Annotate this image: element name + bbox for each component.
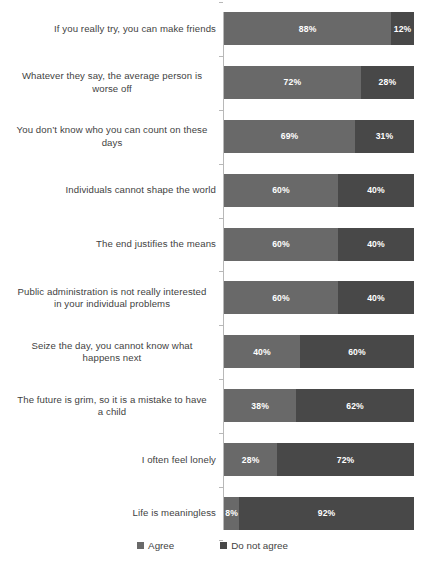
bar-row: I often feel lonely28%72% [0, 443, 425, 476]
segment-value-label: 72% [337, 455, 355, 465]
axis-tick [219, 218, 223, 219]
legend-label: Agree [148, 540, 174, 551]
bar-row: Life is meaningless8%92% [0, 497, 425, 530]
bar-row: Individuals cannot shape the world60%40% [0, 174, 425, 207]
stacked-bar: 40%60% [224, 335, 414, 368]
segment-value-label: 60% [272, 293, 290, 303]
category-label: Whatever they say, the average person is… [8, 70, 216, 95]
legend-label: Do not agree [231, 540, 288, 551]
segment-agree: 60% [224, 281, 338, 314]
category-label: You don’t know who you can count on thes… [8, 124, 216, 149]
segment-value-label: 88% [299, 24, 317, 34]
segment-agree: 38% [224, 389, 296, 422]
axis-tick [219, 2, 223, 3]
axis-tick [219, 164, 223, 165]
stacked-bar: 60%40% [224, 281, 414, 314]
axis-tick [219, 110, 223, 111]
segment-value-label: 69% [281, 131, 299, 141]
stacked-bar: 60%40% [224, 174, 414, 207]
category-label: If you really try, you can make friends [8, 22, 216, 35]
segment-agree: 60% [224, 174, 338, 207]
chart-legend: AgreeDo not agree [0, 540, 425, 551]
bar-row: The future is grim, so it is a mistake t… [0, 389, 425, 422]
segment-value-label: 12% [394, 24, 412, 34]
segment-value-label: 92% [318, 508, 336, 518]
segment-value-label: 40% [253, 347, 271, 357]
category-label: Seize the day, you cannot know what happ… [8, 339, 216, 364]
segment-value-label: 31% [376, 131, 394, 141]
legend-item[interactable]: Agree [137, 540, 174, 551]
segment-do-not-agree: 31% [355, 120, 414, 153]
segment-do-not-agree: 40% [338, 174, 414, 207]
segment-value-label: 72% [284, 77, 302, 87]
segment-do-not-agree: 40% [338, 228, 414, 261]
segment-do-not-agree: 60% [300, 335, 414, 368]
stacked-bar: 88%12% [224, 12, 414, 45]
segment-agree: 40% [224, 335, 300, 368]
plot-area: If you really try, you can make friends8… [0, 12, 425, 530]
axis-tick [219, 379, 223, 380]
segment-value-label: 8% [225, 508, 238, 518]
segment-value-label: 40% [367, 185, 385, 195]
bar-rows: If you really try, you can make friends8… [0, 12, 425, 530]
stacked-bar: 72%28% [224, 66, 414, 99]
stacked-bar: 8%92% [224, 497, 414, 530]
segment-value-label: 60% [348, 347, 366, 357]
bar-row: The end justifies the means60%40% [0, 228, 425, 261]
segment-do-not-agree: 40% [338, 281, 414, 314]
segment-agree: 28% [224, 443, 277, 476]
segment-value-label: 62% [346, 401, 364, 411]
axis-tick [219, 325, 223, 326]
axis-tick [219, 433, 223, 434]
segment-do-not-agree: 92% [239, 497, 414, 530]
bar-row: Seize the day, you cannot know what happ… [0, 335, 425, 368]
segment-agree: 72% [224, 66, 361, 99]
axis-tick [219, 271, 223, 272]
category-label: I often feel lonely [8, 453, 216, 466]
stacked-bar-chart: If you really try, you can make friends8… [0, 0, 425, 572]
segment-value-label: 28% [242, 455, 260, 465]
category-label: The future is grim, so it is a mistake t… [8, 393, 216, 418]
bar-row: You don’t know who you can count on thes… [0, 120, 425, 153]
segment-value-label: 40% [367, 293, 385, 303]
stacked-bar: 69%31% [224, 120, 414, 153]
segment-value-label: 28% [379, 77, 397, 87]
category-label: Life is meaningless [8, 507, 216, 520]
stacked-bar: 28%72% [224, 443, 414, 476]
segment-agree: 8% [224, 497, 239, 530]
segment-do-not-agree: 62% [296, 389, 414, 422]
legend-item[interactable]: Do not agree [220, 540, 288, 551]
category-label: Public administration is not really inte… [8, 285, 216, 310]
bar-row: If you really try, you can make friends8… [0, 12, 425, 45]
segment-do-not-agree: 28% [361, 66, 414, 99]
category-label: The end justifies the means [8, 238, 216, 251]
segment-agree: 88% [224, 12, 391, 45]
stacked-bar: 60%40% [224, 228, 414, 261]
segment-do-not-agree: 72% [277, 443, 414, 476]
bar-row: Public administration is not really inte… [0, 281, 425, 314]
stacked-bar: 38%62% [224, 389, 414, 422]
bar-row: Whatever they say, the average person is… [0, 66, 425, 99]
axis-tick [219, 487, 223, 488]
segment-agree: 60% [224, 228, 338, 261]
legend-swatch-icon [220, 542, 227, 549]
segment-value-label: 60% [272, 239, 290, 249]
segment-agree: 69% [224, 120, 355, 153]
category-label: Individuals cannot shape the world [8, 184, 216, 197]
segment-value-label: 60% [272, 185, 290, 195]
axis-tick [219, 56, 223, 57]
segment-value-label: 40% [367, 239, 385, 249]
legend-swatch-icon [137, 542, 144, 549]
segment-value-label: 38% [251, 401, 269, 411]
segment-do-not-agree: 12% [391, 12, 414, 45]
